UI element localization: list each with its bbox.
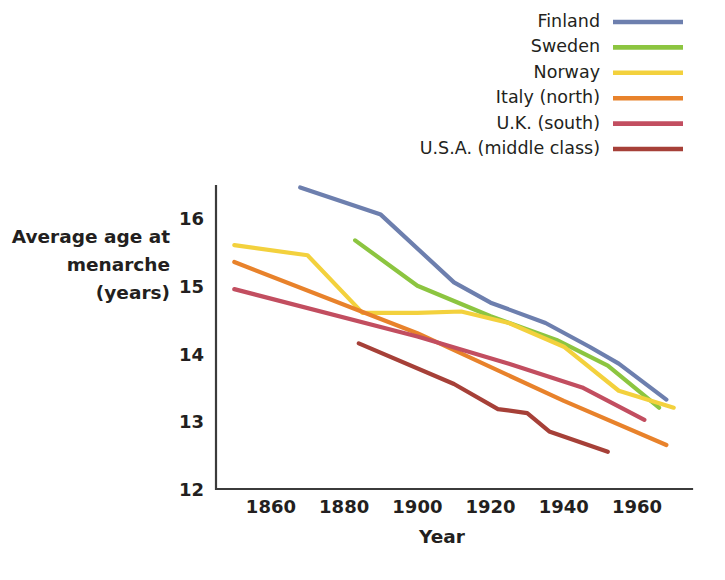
y-axis-title: Average age atmenarche(years)	[12, 226, 170, 303]
y-tick-label: 12	[179, 479, 204, 500]
chart-figure: FinlandSwedenNorwayItaly (north)U.K. (so…	[0, 0, 725, 580]
y-tick-label: 14	[179, 344, 204, 365]
y-axis-title-line: menarche	[67, 254, 170, 275]
x-axis-tick-labels: 186018801900192019401960	[246, 496, 662, 517]
chart-axes	[216, 186, 692, 489]
legend-label-u-s-a-middle-class: U.S.A. (middle class)	[420, 138, 600, 158]
x-tick-label: 1880	[319, 496, 369, 517]
y-axis-title-line: (years)	[96, 282, 170, 303]
x-tick-label: 1860	[246, 496, 296, 517]
chart-legend: FinlandSwedenNorwayItaly (north)U.K. (so…	[420, 11, 683, 158]
line-chart: FinlandSwedenNorwayItaly (north)U.K. (so…	[0, 0, 725, 580]
legend-label-u-k-south: U.K. (south)	[497, 113, 601, 133]
y-tick-label: 13	[179, 411, 204, 432]
series-line-u-s-a-middle-class	[359, 343, 608, 451]
y-tick-label: 15	[179, 276, 204, 297]
x-tick-label: 1940	[539, 496, 589, 517]
x-axis-title: Year	[418, 526, 466, 547]
x-tick-label: 1900	[392, 496, 442, 517]
x-tick-label: 1920	[466, 496, 516, 517]
legend-label-finland: Finland	[537, 11, 600, 31]
x-tick-label: 1960	[612, 496, 662, 517]
legend-label-norway: Norway	[534, 62, 600, 82]
y-axis-title-line: Average age at	[12, 226, 170, 247]
axis-lines	[216, 186, 692, 489]
legend-label-italy-north: Italy (north)	[496, 87, 600, 107]
y-tick-label: 16	[179, 208, 204, 229]
y-axis-tick-labels: 1213141516	[179, 208, 204, 500]
chart-series-lines	[234, 188, 673, 452]
legend-label-sweden: Sweden	[531, 36, 600, 56]
x-axis-title: Year	[418, 526, 466, 547]
